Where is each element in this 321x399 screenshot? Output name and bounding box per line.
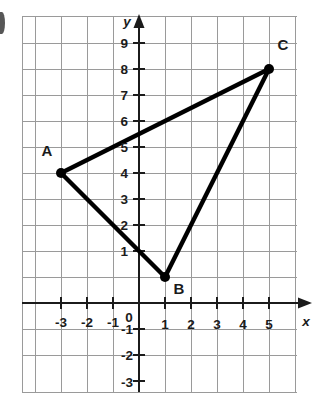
x-axis-label: x bbox=[301, 314, 310, 329]
y-tick-label-6: 6 bbox=[120, 114, 128, 129]
vertex-point-a bbox=[56, 168, 66, 178]
x-tick-label-5: 5 bbox=[265, 317, 273, 332]
y-tick-label-7: 7 bbox=[120, 88, 128, 103]
x-axis-arrowhead bbox=[298, 298, 312, 309]
y-tick-label-5: 5 bbox=[120, 140, 128, 155]
vertex-point-c bbox=[264, 64, 274, 74]
axes bbox=[22, 25, 300, 392]
y-tick-label-4: 4 bbox=[120, 166, 128, 181]
x-tick-label-neg1: -1 bbox=[107, 315, 119, 330]
coordinate-plane-figure: -3 -2 -1 1 2 3 4 5 0 9 8 7 6 5 4 3 2 1 -… bbox=[0, 0, 321, 399]
y-tick-label-8: 8 bbox=[120, 62, 128, 77]
y-tick-label-1: 1 bbox=[120, 244, 128, 259]
x-tick-label-1: 1 bbox=[161, 317, 169, 332]
x-tick-label-neg2: -2 bbox=[81, 315, 93, 330]
x-tick-label-4: 4 bbox=[239, 317, 247, 332]
y-tick-label-2: 2 bbox=[120, 218, 128, 233]
vertex-label-a: A bbox=[42, 142, 53, 159]
y-tick-label-9: 9 bbox=[120, 36, 128, 51]
y-tick-label-3: 3 bbox=[120, 192, 128, 207]
x-tick-label-2: 2 bbox=[187, 317, 195, 332]
x-tick-label-3: 3 bbox=[213, 317, 221, 332]
y-tick-label-neg2: -2 bbox=[121, 348, 133, 363]
x-tick-label-neg3: -3 bbox=[55, 315, 67, 330]
y-axis-label: y bbox=[122, 14, 132, 29]
y-tick-label-neg3: -3 bbox=[121, 375, 133, 390]
y-tick-label-neg1: -1 bbox=[121, 322, 133, 337]
graph-canvas: -3 -2 -1 1 2 3 4 5 0 9 8 7 6 5 4 3 2 1 -… bbox=[0, 0, 321, 399]
vertex-label-b: B bbox=[174, 280, 185, 297]
vertex-label-c: C bbox=[278, 36, 289, 53]
grid-lines bbox=[22, 16, 297, 392]
vertex-point-b bbox=[160, 272, 170, 282]
